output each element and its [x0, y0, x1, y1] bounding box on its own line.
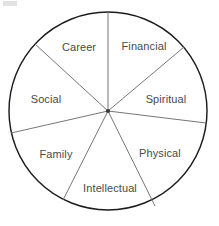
wheel-center-hub	[106, 109, 110, 113]
sector-label-social: Social	[31, 94, 62, 105]
sector-label-family: Family	[40, 149, 73, 160]
sector-label-spiritual: Spiritual	[146, 94, 187, 105]
life-balance-wheel-diagram: FinancialSpiritualPhysicalIntellectualFa…	[0, 0, 219, 226]
sector-label-intellectual: Intellectual	[83, 183, 137, 194]
sector-label-financial: Financial	[122, 41, 167, 52]
sector-label-career: Career	[62, 42, 96, 53]
sector-label-physical: Physical	[139, 148, 181, 159]
